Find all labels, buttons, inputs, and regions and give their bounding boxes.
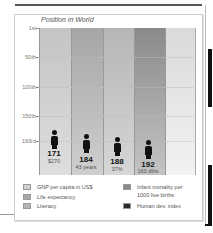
value-label: 37%	[102, 166, 132, 172]
y-tick-label: 193rd	[18, 138, 36, 144]
page-frame	[205, 5, 206, 225]
person-icon	[48, 130, 60, 149]
person-icon	[80, 134, 92, 153]
chart-title: Position in World	[41, 16, 94, 23]
person-icon	[111, 137, 123, 156]
value-label: 163 dths	[133, 168, 163, 174]
page-frame-corner	[205, 224, 212, 226]
value-label: $270	[39, 158, 69, 164]
legend-label-infant-2: 1000 live births	[137, 192, 174, 198]
rank-label: 188	[102, 157, 132, 166]
legend-swatch-infant	[123, 184, 131, 190]
y-tick-label: 1st	[18, 25, 36, 31]
legend-swatch-gnp	[23, 184, 31, 190]
top-rule	[15, 4, 202, 6]
page-edge-bar	[208, 165, 212, 225]
value-label: 43 years	[71, 164, 101, 170]
gridline	[39, 116, 196, 117]
page-rule	[0, 214, 14, 215]
y-tick-label: 150th	[18, 113, 36, 119]
y-tick-label: 50th	[18, 54, 36, 60]
rank-label: 171	[39, 149, 69, 158]
legend-swatch-life	[23, 194, 31, 200]
rank-label: 184	[71, 155, 101, 164]
legend-label-literacy: Literacy	[37, 203, 56, 209]
legend-swatch-hdi	[123, 203, 131, 209]
gridline	[39, 57, 196, 58]
y-tick-label: 100th	[18, 84, 36, 90]
page-edge-bar	[208, 49, 212, 107]
legend-label-infant: Infant mortality per	[137, 184, 183, 190]
gridline	[39, 87, 196, 88]
legend-label-hdi: Human dev. index	[137, 203, 181, 209]
column-human-dev	[165, 28, 196, 175]
legend-label-life: Life expectancy	[37, 194, 75, 200]
legend-label-gnp: GNP per capita in US$	[37, 184, 93, 190]
person-icon	[142, 140, 154, 159]
legend-swatch-literacy	[23, 203, 31, 209]
